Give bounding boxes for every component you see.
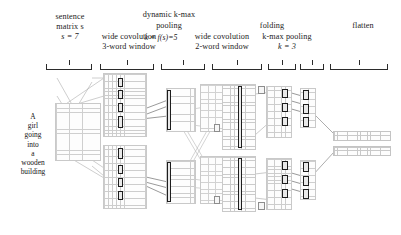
bracket-folding	[268, 64, 296, 70]
flatten-strip-top	[333, 131, 391, 141]
wide-conv2-highlight-cell	[238, 158, 242, 210]
bracket-flatten	[330, 64, 388, 70]
dynamic-kmax-highlight-cell	[167, 162, 171, 202]
wide-conv2-connector-square	[214, 124, 220, 132]
wide-conv1-highlight-cell	[118, 178, 123, 187]
sentence-word: into	[12, 140, 54, 149]
wide-conv1-block-top	[103, 73, 147, 137]
sentence-word: wooden	[12, 158, 54, 167]
folding-block-bottom	[266, 158, 292, 210]
wide-conv1-highlight-cell	[118, 165, 123, 174]
folding-highlight-cell	[282, 175, 288, 184]
folding-highlight-cell	[282, 117, 288, 126]
label-sentence-matrix-size: s = 7	[44, 32, 96, 42]
bracket-dynamic-kmax-pooling	[161, 64, 205, 70]
wide-conv1-highlight-cell	[118, 90, 123, 99]
bracket-kmax-pooling	[300, 64, 324, 70]
sentence-word: building	[12, 167, 54, 176]
bracket-wide-convolution-1	[100, 64, 154, 70]
kmax-pooling-highlight-cell	[303, 90, 309, 100]
wide-conv1-block-bottom	[103, 145, 147, 209]
label-dynamic-kmax-line1: dynamic k-max	[128, 10, 210, 20]
label-sentence-matrix-line2: matrix s	[44, 22, 96, 32]
label-flatten: flatten	[340, 21, 386, 31]
kmax-pooling-highlight-cell	[303, 162, 309, 172]
bracket-sentence-matrix	[46, 64, 92, 70]
label-wide-convolution-2-line2: 2-word window	[188, 42, 256, 52]
sentence-word-list: A girl going into a wooden building	[12, 112, 54, 176]
sentence-word: girl	[12, 121, 54, 130]
wide-conv2-connector-square	[214, 196, 220, 204]
dynamic-kmax-highlight-cell	[167, 90, 171, 130]
wide-conv2-highlight-cell	[238, 86, 242, 148]
folding-highlight-cell	[282, 89, 288, 98]
label-sentence-matrix-line1: sentence	[44, 12, 96, 22]
kmax-pooling-highlight-cell	[303, 104, 309, 114]
label-folding: folding	[248, 21, 296, 31]
sentence-matrix-grid	[55, 103, 101, 161]
flatten-strip-bottom	[333, 146, 391, 156]
folding-highlight-cell	[282, 161, 288, 170]
sentence-word: a	[12, 149, 54, 158]
label-wide-convolution-1-line2: 3-word window	[95, 42, 163, 52]
folding-block-top	[266, 86, 292, 138]
label-dynamic-kmax-line2: pooling	[128, 21, 210, 31]
folding-connector-square	[258, 86, 265, 94]
sentence-word: A	[12, 112, 54, 121]
wide-conv1-highlight-cell	[118, 78, 123, 87]
kmax-pooling-highlight-cell	[303, 117, 309, 127]
label-kmax-pooling-line1: k-max pooling	[256, 32, 318, 42]
folding-highlight-cell	[282, 189, 288, 198]
sentence-word: going	[12, 130, 54, 139]
bracket-wide-convolution-2	[212, 64, 262, 70]
wide-conv1-highlight-cell	[118, 116, 123, 128]
figure-canvas: sentence matrix s s = 7 wide covolution …	[0, 0, 401, 235]
label-wide-convolution-2-line1: wide covolution	[188, 32, 256, 42]
kmax-pooling-highlight-cell	[303, 189, 309, 199]
folding-connector-square	[258, 202, 265, 210]
wide-conv1-highlight-cell	[118, 148, 123, 159]
folding-highlight-cell	[282, 103, 288, 112]
label-kmax-pooling-value: k = 3	[256, 42, 318, 52]
kmax-pooling-highlight-cell	[303, 176, 309, 186]
wide-conv1-highlight-cell	[118, 191, 123, 200]
label-dynamic-kmax-value: k = f(s)=5	[130, 33, 192, 43]
wide-conv1-highlight-cell	[118, 103, 123, 112]
